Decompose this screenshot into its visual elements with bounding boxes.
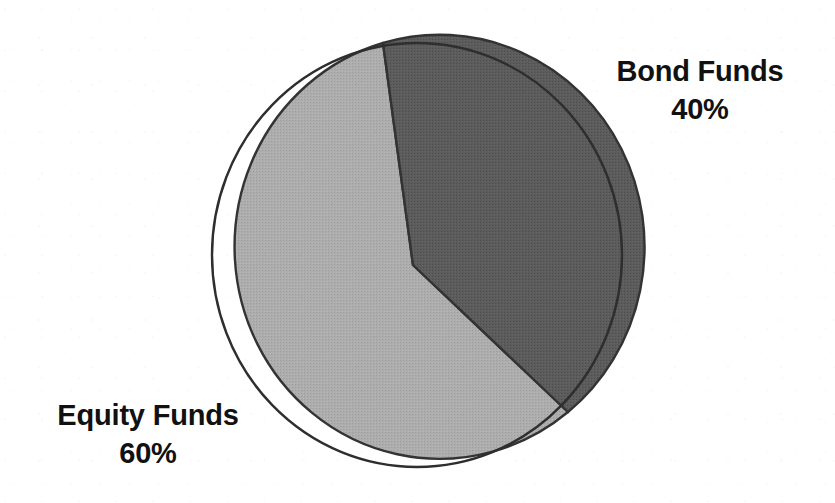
- pie-label-equity-funds-name: Equity Funds: [16, 396, 280, 434]
- pie-label-equity-funds-value: 60%: [16, 434, 280, 472]
- pie-label-bond-funds: Bond Funds 40%: [568, 52, 832, 128]
- pie-label-bond-funds-name: Bond Funds: [568, 52, 832, 90]
- pie-chart-figure: Bond Funds 40% Equity Funds 60%: [0, 0, 835, 503]
- pie-label-bond-funds-value: 40%: [568, 90, 832, 128]
- pie-label-equity-funds: Equity Funds 60%: [16, 396, 280, 472]
